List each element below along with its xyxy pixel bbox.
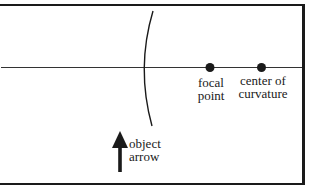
object-arrow-label-line2: arrow: [129, 150, 169, 163]
object-arrow-icon: [112, 131, 128, 172]
center-of-curvature-dot: [257, 63, 266, 72]
center-of-curvature-label-line2: curvature: [236, 87, 290, 100]
focal-point-label: focal point: [195, 76, 227, 102]
center-of-curvature-label: center of curvature: [236, 74, 290, 100]
focal-point-label-line2: point: [195, 89, 227, 102]
focal-point-dot: [206, 63, 215, 72]
object-arrow-label: object arrow: [129, 137, 169, 163]
mirror-curve: [144, 11, 153, 126]
